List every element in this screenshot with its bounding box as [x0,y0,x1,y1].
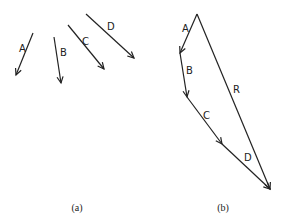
vector-r: R [197,14,270,189]
vector-label: C [82,36,89,47]
vector-label: C [203,110,210,121]
vector-b: B [54,37,67,83]
panel-b-head-to-tail-sum: ABCDR(b) [180,14,271,214]
vector-shaft [16,33,33,75]
vector-label: B [60,47,67,58]
vector-label: R [233,84,240,95]
vector-c: C [187,97,222,144]
vector-label: D [244,152,252,163]
panel-caption: (b) [217,202,229,214]
vector-c: C [68,25,104,69]
panel-a-separate-vectors: ABCD(a) [16,14,134,214]
vector-b: B [180,53,193,97]
vector-d: D [86,14,134,58]
panel-caption: (a) [71,202,82,214]
vector-a: A [16,33,33,75]
vector-addition-diagram: ABCD(a) ABCDR(b) [0,0,282,218]
vector-shaft [54,37,61,83]
vector-shaft [222,144,270,189]
vector-label: A [19,43,26,54]
vector-a: A [180,14,197,53]
vector-label: D [107,21,115,32]
vector-label: B [186,65,193,76]
vector-shaft [68,25,104,69]
vector-shaft [197,14,270,189]
vector-d: D [222,144,270,189]
vector-label: A [182,23,189,34]
